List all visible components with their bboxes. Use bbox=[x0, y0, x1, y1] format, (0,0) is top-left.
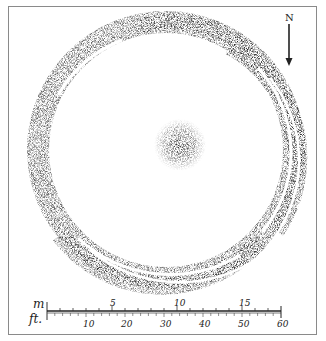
north-label: N bbox=[285, 12, 294, 23]
site-plan-drawing bbox=[0, 0, 326, 341]
feet-unit-label: ft. bbox=[29, 312, 42, 326]
meters-tick-15: 15 bbox=[239, 298, 250, 308]
north-arrow-icon bbox=[286, 24, 293, 66]
meters-tick-10: 10 bbox=[174, 298, 185, 308]
meters-unit-label: m bbox=[33, 297, 44, 311]
feet-tick-40: 40 bbox=[199, 319, 210, 329]
central-mound bbox=[154, 119, 206, 171]
feet-tick-50: 50 bbox=[238, 319, 249, 329]
feet-tick-30: 30 bbox=[160, 319, 171, 329]
feet-tick-20: 20 bbox=[121, 319, 132, 329]
feet-tick-60: 60 bbox=[277, 319, 288, 329]
meters-tick-5: 5 bbox=[110, 298, 116, 308]
feet-tick-10: 10 bbox=[83, 319, 94, 329]
